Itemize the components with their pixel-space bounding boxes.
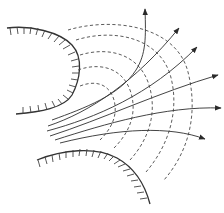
streamline-2 xyxy=(48,28,179,126)
upper-wall xyxy=(7,27,80,114)
flow-net-diagram xyxy=(0,0,224,213)
streamline-6 xyxy=(60,130,205,143)
lower-wall-hatching xyxy=(38,149,147,199)
equipotential-5 xyxy=(68,24,192,180)
streamline-4 xyxy=(50,75,218,136)
lower-wall xyxy=(37,149,150,204)
upper-wall-hatching xyxy=(10,27,79,114)
streamline-1 xyxy=(52,9,145,120)
equipotential-1 xyxy=(80,83,115,140)
equipotential-lines xyxy=(68,24,192,180)
streamline-3 xyxy=(47,47,197,131)
streamlines xyxy=(47,9,221,143)
equipotential-2 xyxy=(78,67,133,148)
